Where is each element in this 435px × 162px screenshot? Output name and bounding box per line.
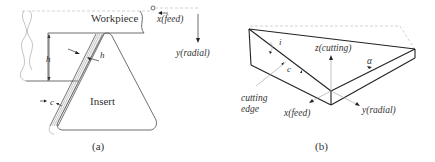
i-marker (269, 42, 272, 54)
cutting-edge-label-1: cutting (241, 93, 268, 103)
i-label: i (279, 37, 282, 47)
c-label-a: c (50, 97, 54, 107)
h-vertical-label: h (46, 54, 51, 64)
alpha-label: α (367, 56, 373, 66)
prism-shape (249, 29, 415, 105)
workpiece-label: Workpiece (91, 12, 138, 24)
x-feed-label-b: x(feed) (283, 108, 310, 119)
x-feed-label-a: x(feed) (156, 14, 183, 25)
caption-a: (a) (92, 140, 105, 153)
y-axis-b (331, 91, 360, 106)
z-cutting-label: z(cutting) (314, 43, 351, 54)
y-radial-label-b: y(radial) (361, 105, 396, 116)
h-chip-label: h (100, 50, 105, 60)
y-radial-label-a: y(radial) (175, 48, 210, 59)
caption-b: (b) (315, 140, 328, 153)
cutting-edge-leader (256, 62, 286, 86)
x-axis-b (309, 91, 331, 103)
z-axis (329, 55, 333, 91)
insert-label: Insert (90, 95, 115, 107)
figure-canvas: Workpiece Insert h h (0, 0, 435, 162)
figure-a: Workpiece Insert h h (20, 6, 209, 153)
alpha-arrow-icon (367, 66, 372, 69)
axes-a (151, 6, 200, 43)
c-label-b: c (287, 64, 291, 74)
figure-b: z(cutting) x(feed) y(radial) cutting edg… (241, 26, 415, 153)
cutting-edge-label-2: edge (241, 104, 259, 114)
